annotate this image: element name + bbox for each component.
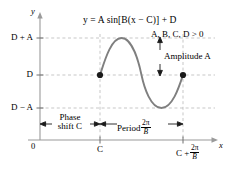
x-tick-fraction: 2πB	[190, 144, 200, 160]
y-axis-label: y	[31, 7, 35, 16]
x-axis-label: x	[219, 141, 223, 150]
y-tick-label-d-plus-a: D + A	[0, 33, 33, 42]
curve-start-point	[97, 72, 103, 78]
y-axis-arrowhead	[37, 12, 42, 19]
phase-shift-annotation-label: Phase shift C	[48, 113, 92, 132]
phase-shift-line-2: shift C	[48, 122, 92, 131]
y-tick-label-d-minus-a: D − A	[0, 103, 33, 112]
period-fraction: 2πB	[141, 119, 151, 135]
x-tick-fraction-denominator: B	[190, 153, 200, 161]
sine-transformation-figure: y = A sin[B(x − C)] + D A, B, C, D > 0 y…	[0, 0, 238, 172]
amplitude-arrow	[158, 37, 163, 76]
period-fraction-denominator: B	[141, 128, 151, 136]
y-tick-label-d: D	[0, 70, 33, 79]
horizontal-gridlines	[40, 38, 215, 108]
x-axis-arrowhead	[212, 137, 219, 142]
x-tick-label-c-plus-period: C +2πB	[165, 144, 211, 160]
phase-shift-arrowhead-left	[40, 122, 46, 127]
period-arrowhead-right	[177, 122, 183, 127]
period-annotation-text: Period	[117, 123, 141, 133]
period-annotation-label: Period2πB	[117, 119, 151, 135]
period-arrowhead-left	[100, 122, 106, 127]
curve-end-point	[180, 72, 186, 78]
equation-label: y = A sin[B(x − C)] + D	[83, 16, 177, 26]
condition-label: A, B, C, D > 0	[151, 30, 204, 39]
x-tick-c-plus-prefix: C +	[176, 148, 189, 158]
sine-curve	[100, 38, 183, 108]
origin-label: 0	[31, 142, 35, 151]
x-tick-label-c: C	[90, 145, 110, 154]
amplitude-annotation-label: Amplitude A	[164, 52, 211, 61]
